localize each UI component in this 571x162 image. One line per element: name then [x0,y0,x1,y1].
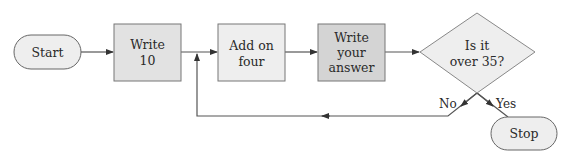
writeanswer-node: Write your answer [318,24,385,81]
writeanswer-line-3: answer [329,60,375,75]
stop-node: Stop [491,117,557,150]
decision-line-1: Is it [465,38,489,53]
start-label: Start [31,45,63,60]
write10-node: Write 10 [114,24,181,81]
no-label: No [439,97,457,111]
stop-label: Stop [509,126,538,141]
addfour-line-1: Add on [228,38,274,53]
flowchart: Start Write 10 Add on four Write your an… [0,0,571,162]
write10-line-2: 10 [140,53,156,68]
decision-node: Is it over 35? [420,13,535,93]
addfour-line-2: four [238,54,264,69]
writeanswer-line-2: your [336,45,366,60]
start-node: Start [14,35,81,69]
writeanswer-line-1: Write [334,30,369,45]
write10-line-1: Write [130,37,165,52]
addfour-node: Add on four [218,24,285,81]
decision-line-2: over 35? [450,54,505,69]
yes-label: Yes [495,97,516,111]
